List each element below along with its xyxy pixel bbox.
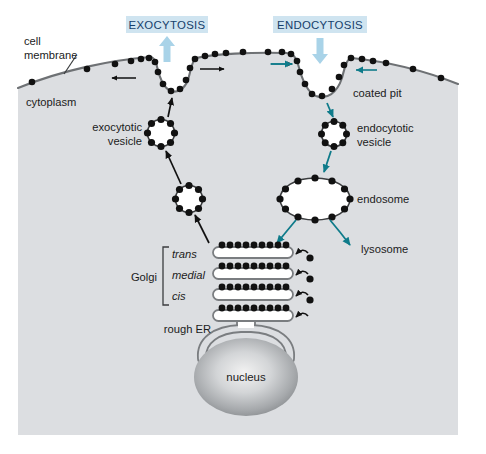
diagram-canvas: EXOCYTOSIS ENDOCYTOSIS: [0, 0, 486, 454]
golgi-cisterna-medial: [213, 263, 293, 279]
endosome-label: endosome: [357, 193, 409, 205]
golgi-cisterna-rough-er-body: [213, 310, 293, 321]
cell-trafficking-diagram: EXOCYTOSIS ENDOCYTOSIS: [0, 0, 486, 454]
exocytotic-vesicle-lower: [172, 182, 206, 216]
exocytotic-vesicle-label-line1: exocytotic: [92, 121, 142, 133]
cell-membrane-label-line2: membrane: [24, 49, 77, 61]
golgi-cis-label: cis: [172, 290, 186, 302]
endocytotic-vesicle-label-line1: endocytotic: [357, 122, 414, 134]
coated-pit-label: coated pit: [353, 87, 402, 99]
golgi-cisterna-cis-ribosomes: [219, 284, 290, 291]
golgi-trans-label: trans: [172, 248, 197, 260]
endocytosis-banner-label: ENDOCYTOSIS: [277, 19, 363, 31]
lysosome-label: lysosome: [361, 243, 408, 255]
golgi-transport-dot-2: [306, 275, 313, 282]
golgi-cisterna-trans-body: [213, 247, 293, 258]
nucleus: nucleus: [194, 338, 298, 416]
exocytotic-vesicle-label-line2: vesicle: [108, 135, 142, 147]
endosome-body: [280, 178, 350, 220]
golgi-transport-dot-3: [306, 296, 313, 303]
golgi-cisterna-rough-er-ribosomes: [219, 305, 290, 312]
golgi-cisterna-trans: [213, 242, 293, 258]
golgi-medial-label: medial: [172, 269, 205, 281]
rough-er-label: rough ER: [164, 323, 211, 335]
exocytotic-vesicle-upper: [144, 116, 178, 150]
golgi-cisterna-medial-ribosomes: [219, 263, 290, 270]
golgi-cisterna-rough-er: [213, 305, 293, 321]
golgi-cisterna-cis: [213, 284, 293, 300]
cell-membrane-label-line1: cell: [24, 35, 41, 47]
golgi-cisterna-trans-ribosomes: [219, 242, 290, 249]
nucleus-label: nucleus: [226, 371, 266, 383]
cytoplasm-label: cytoplasm: [26, 96, 76, 108]
exocytosis-banner-label: EXOCYTOSIS: [129, 19, 206, 31]
endocytotic-vesicle-label-line2: vesicle: [357, 136, 391, 148]
golgi-cisterna-medial-body: [213, 268, 293, 279]
golgi-transport-dot-1: [306, 254, 313, 261]
exocytosis-banner: EXOCYTOSIS: [126, 16, 208, 62]
endocytotic-vesicle: [318, 118, 350, 150]
golgi-cisterna-cis-body: [213, 289, 293, 300]
golgi-label: Golgi: [131, 271, 157, 283]
exocytosis-up-arrow-icon: [159, 36, 175, 62]
endocytosis-down-arrow-icon: [312, 38, 328, 64]
